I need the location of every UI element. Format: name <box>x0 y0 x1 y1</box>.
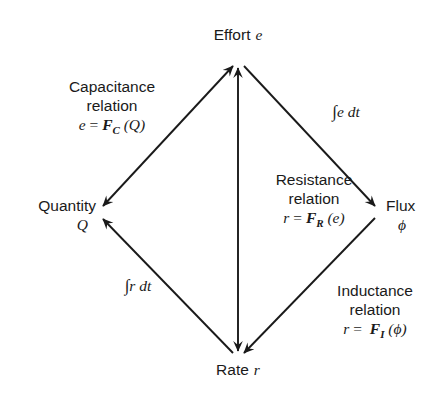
capacitance-line-1: Capacitance <box>44 78 180 97</box>
capacitance-lhs: e <box>79 116 86 133</box>
resistance-line-2: relation <box>246 190 382 209</box>
vertex-label-flux: Flux ϕ <box>386 197 443 235</box>
vertex-label-quantity: Quantity Q <box>0 197 96 235</box>
vertex-effort-name: Effort <box>214 26 251 43</box>
vertex-rate-name: Rate <box>216 361 249 378</box>
vertex-rate-symbol: r <box>254 361 260 378</box>
edge-label-capacitance: Capacitance relation e = FC (Q) <box>44 78 180 137</box>
vertex-flux-symbol: ϕ <box>398 216 443 235</box>
vertex-quantity-symbol: Q <box>0 216 88 235</box>
inductance-line-2: relation <box>310 301 440 320</box>
inductance-func: F <box>370 320 380 337</box>
resistance-arg: (e) <box>327 209 344 226</box>
capacitance-func: F <box>102 116 112 133</box>
vertex-quantity-name: Quantity <box>38 197 96 214</box>
inductance-arg: (ϕ) <box>388 320 406 337</box>
capacitance-line-2: relation <box>44 97 180 116</box>
inductance-formula: r = FI (ϕ) <box>310 320 440 342</box>
resistance-subscript: R <box>316 217 323 229</box>
resistance-lhs: r <box>283 209 289 226</box>
capacitance-formula: e = FC (Q) <box>44 116 180 138</box>
integral-e-body: e dt <box>337 103 360 120</box>
resistance-line-1: Resistance <box>246 171 382 190</box>
diagram-canvas: Efforte Quantity Q Flux ϕ Rater Capacita… <box>0 0 443 393</box>
edge-label-integral-e-dt: ∫e dt <box>311 102 381 123</box>
resistance-func: F <box>306 209 316 226</box>
inductance-line-1: Inductance <box>310 282 440 301</box>
inductance-subscript: I <box>380 328 384 340</box>
inductance-lhs: r <box>343 320 349 337</box>
edge-label-resistance: Resistance relation r = FR (e) <box>246 171 382 230</box>
inductance-equals: = <box>353 320 362 337</box>
vertex-label-effort: Efforte <box>176 26 300 45</box>
capacitance-subscript: C <box>112 124 119 136</box>
vertex-label-rate: Rater <box>178 361 298 380</box>
capacitance-arg: (Q) <box>124 116 146 133</box>
vertex-effort-symbol: e <box>255 26 262 43</box>
vertex-flux-name: Flux <box>386 197 415 214</box>
resistance-formula: r = FR (e) <box>246 209 382 231</box>
integral-r-body: r dt <box>129 277 151 294</box>
resistance-equals: = <box>293 209 302 226</box>
capacitance-equals: = <box>90 116 99 133</box>
edge-label-inductance: Inductance relation r = FI (ϕ) <box>310 282 440 341</box>
edge-label-integral-r-dt: ∫r dt <box>103 276 173 297</box>
